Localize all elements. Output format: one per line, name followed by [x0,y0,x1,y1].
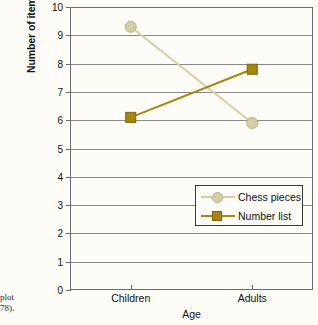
y-tick-label: 9 [57,30,63,41]
y-tick-label: 1 [57,256,63,267]
caption-fragment-line-2: 78). [0,303,34,314]
y-tick-label: 7 [57,86,63,97]
y-tick-mark [66,290,71,291]
legend-label-number-list: Number list [238,210,291,222]
x-tick-label: Adults [238,292,267,304]
data-point-circle-marker [247,118,258,129]
series-line-chess-pieces [131,27,253,123]
data-point-circle-marker [125,21,136,32]
legend-label-chess-pieces: Chess pieces [238,191,301,203]
y-tick-label: 0 [57,285,63,296]
data-point-square-marker [126,112,136,122]
legend: Chess pieces Number list [195,185,303,226]
y-tick-label: 5 [57,143,63,154]
caption-fragment-line-1: plot [0,292,34,303]
legend-row-chess-pieces: Chess pieces [196,187,302,207]
plot-area: 109876543210 ChildrenAdults Chess pieces… [70,7,313,290]
x-axis-title: Age [70,308,313,320]
y-axis-title: Number of items recalled [25,0,41,73]
y-tick-label: 10 [52,2,63,13]
data-point-square-marker [247,64,257,74]
circle-marker-icon [212,192,223,203]
y-tick-label: 3 [57,200,63,211]
legend-row-number-list: Number list [196,206,302,226]
series-line-number-list [131,69,253,117]
y-tick-label: 4 [57,171,63,182]
y-tick-label: 8 [57,58,63,69]
x-tick-label: Children [111,292,150,304]
y-tick-label: 2 [57,228,63,239]
y-tick-label: 6 [57,115,63,126]
caption-fragment: plot 78). [0,292,34,314]
legend-swatch-chess-pieces [201,190,235,204]
square-marker-icon [212,211,222,221]
figure-chart-interaction-plot: plot 78). Number of items recalled Age 1… [0,0,318,325]
series-lines-and-markers [70,7,313,290]
legend-swatch-number-list [201,209,235,223]
